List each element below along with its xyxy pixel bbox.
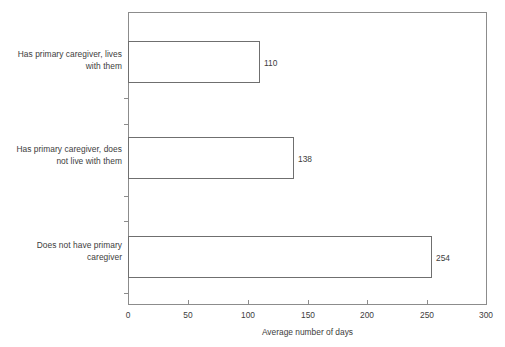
x-axis-tick <box>308 300 309 304</box>
y-axis-tick <box>124 221 128 222</box>
category-label-has-caregiver-not-lives-with: Has primary caregiver, does not live wit… <box>0 144 122 167</box>
x-axis-tick-label: 150 <box>288 310 328 320</box>
category-label-line: not live with them <box>0 156 122 168</box>
bar-has-caregiver-lives-with <box>128 41 260 83</box>
category-label-line: with them <box>0 61 122 73</box>
x-axis-tick-label: 100 <box>228 310 268 320</box>
x-axis-tick-label: 200 <box>347 310 387 320</box>
x-axis-tick <box>367 300 368 304</box>
bar-value-label: 138 <box>298 154 312 164</box>
y-axis-tick <box>124 124 128 125</box>
category-label-no-primary-caregiver: Does not have primary caregiver <box>0 240 122 263</box>
bar-no-primary-caregiver <box>128 236 432 278</box>
x-axis-tick-label: 0 <box>108 310 148 320</box>
category-label-line: Does not have primary <box>0 240 122 252</box>
bar-chart: Has primary caregiver, lives with them H… <box>0 0 505 347</box>
bar-value-label: 254 <box>436 253 450 263</box>
x-axis-tick <box>427 300 428 304</box>
bar-has-caregiver-not-lives-with <box>128 137 294 179</box>
x-axis-tick <box>128 300 129 304</box>
x-axis-tick-label: 250 <box>407 310 447 320</box>
x-axis-tick <box>486 300 487 304</box>
x-axis-tick-label: 50 <box>168 310 208 320</box>
category-label-has-caregiver-lives-with: Has primary caregiver, lives with them <box>0 49 122 72</box>
bar-value-label: 110 <box>264 58 277 68</box>
x-axis-title: Average number of days <box>128 327 487 337</box>
x-axis-tick-label: 300 <box>466 310 505 320</box>
category-label-line: caregiver <box>0 252 122 264</box>
x-axis-tick <box>188 300 189 304</box>
y-axis-tick <box>124 196 128 197</box>
y-axis-tick <box>124 293 128 294</box>
category-label-line: Has primary caregiver, lives <box>0 49 122 61</box>
x-axis-tick <box>248 300 249 304</box>
category-label-line: Has primary caregiver, does <box>0 144 122 156</box>
y-axis-tick <box>124 98 128 99</box>
